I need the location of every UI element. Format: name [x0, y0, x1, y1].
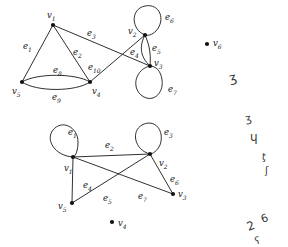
vertex-v2-bottom — [148, 152, 152, 156]
edge-e10-top — [90, 35, 145, 82]
vertex-v5-bottom — [70, 201, 74, 205]
vertex-v3-bottom — [171, 192, 175, 196]
edge-e3-bottom — [135, 123, 161, 154]
edge-e7-bottom — [73, 157, 173, 194]
vertex-v5-top — [20, 80, 24, 84]
bottom-graph-vertices — [70, 152, 175, 224]
vertex-v6-top — [205, 42, 209, 46]
vertex-v3-top — [148, 64, 152, 68]
edge-e2-bottom — [73, 154, 150, 157]
edge-e8-top — [22, 75, 90, 82]
edge-e1-bottom — [50, 125, 78, 157]
edge-e1-top — [22, 25, 53, 82]
edge-e3-top — [53, 25, 150, 66]
edge-e6-top — [134, 6, 161, 36]
top-graph-edges — [22, 6, 162, 99]
edge-e4-bottom — [72, 157, 73, 203]
vertex-v1-top — [51, 23, 55, 27]
vertex-v2-top — [143, 33, 147, 37]
top-graph-vertices — [20, 23, 209, 84]
edge-e9-top — [22, 82, 90, 90]
edge-e2-top — [53, 25, 90, 82]
vertex-v4-bottom — [110, 220, 114, 224]
bottom-graph-edges — [50, 123, 173, 203]
vertex-v4-top — [88, 80, 92, 84]
edge-e7-top — [136, 66, 162, 98]
edge-e6-bottom — [150, 154, 173, 194]
edge-e4-top — [141, 35, 150, 66]
vertex-v1-bottom — [71, 155, 75, 159]
